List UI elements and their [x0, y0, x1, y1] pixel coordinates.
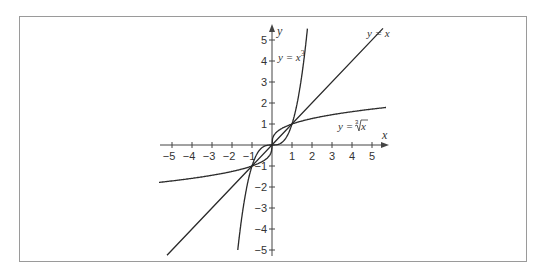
x-axis-label: x — [381, 128, 388, 142]
x-tick-label: 5 — [369, 150, 375, 162]
y-tick-label: −3 — [254, 202, 267, 214]
x-tick-label: −2 — [223, 150, 236, 162]
x-axis-arrow-icon — [381, 142, 389, 148]
svg-text:y =: y = — [337, 120, 353, 132]
label-identity: y = x — [366, 27, 390, 39]
x-tick-label: −4 — [183, 150, 196, 162]
label-cube-root: y = 3 x — [337, 119, 368, 132]
x-tick-label: 2 — [309, 150, 315, 162]
y-axis-label: y — [276, 24, 283, 38]
y-tick-label: 3 — [261, 76, 267, 88]
x-tick-label: −5 — [163, 150, 176, 162]
y-tick-label: −5 — [254, 244, 267, 256]
x-tick-label: 3 — [329, 150, 335, 162]
label-cube: y = x3 — [277, 49, 305, 63]
y-axis-arrow-icon — [269, 24, 275, 32]
x-tick-label: −3 — [203, 150, 216, 162]
y-tick-label: 1 — [261, 118, 267, 130]
y-tick-label: −2 — [254, 181, 267, 193]
curve-identity — [167, 28, 383, 255]
x-tick-label: 4 — [349, 150, 355, 162]
y-tick-label: 2 — [261, 97, 267, 109]
y-tick-label: 4 — [261, 55, 267, 67]
svg-text:3: 3 — [355, 119, 359, 125]
y-tick-label: 5 — [261, 34, 267, 46]
x-tick-label: 1 — [289, 150, 295, 162]
function-graph: −5−4−3−2−112345 54321−1−2−3−4−5 x y y = … — [0, 0, 551, 278]
y-tick-label: −4 — [254, 223, 267, 235]
svg-text:x: x — [360, 120, 366, 132]
